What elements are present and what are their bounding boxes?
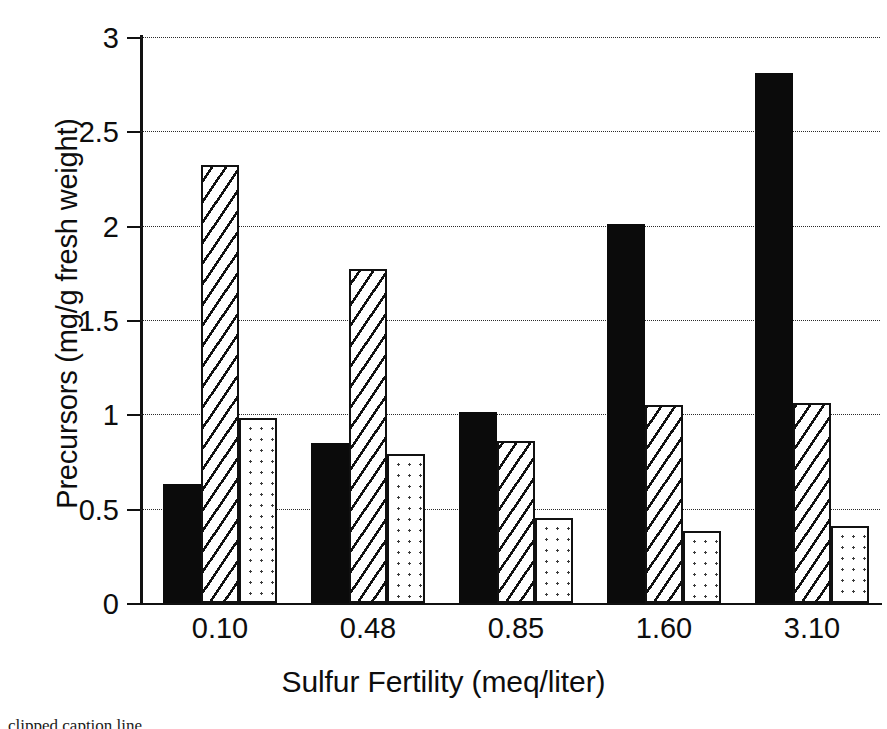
y-axis-tick: 0 bbox=[127, 603, 141, 605]
y-axis-tick: 3 bbox=[127, 37, 141, 39]
y-axis-tick-label: 3 bbox=[103, 22, 119, 55]
bar-series-hatched-0.10[interactable] bbox=[201, 165, 239, 603]
bar-group bbox=[607, 37, 721, 603]
bar-series-solid-0.48[interactable] bbox=[311, 443, 349, 603]
bar-group bbox=[755, 37, 869, 603]
y-axis-tick-label: 1.5 bbox=[79, 305, 119, 338]
y-axis-tick-label: 0 bbox=[103, 588, 119, 621]
figure-caption-clipped: clipped caption line bbox=[8, 716, 879, 729]
bar-series-solid-0.85[interactable] bbox=[459, 412, 497, 603]
bar-series-dotted-1.60[interactable] bbox=[683, 531, 721, 603]
bar-series-dotted-0.48[interactable] bbox=[387, 454, 425, 603]
x-axis-tick-label: 1.60 bbox=[636, 612, 692, 645]
bar-group bbox=[459, 37, 573, 603]
bar-group bbox=[163, 37, 277, 603]
bar-series-dotted-0.10[interactable] bbox=[239, 418, 277, 603]
bar-series-hatched-3.10[interactable] bbox=[793, 403, 831, 603]
y-axis-tick: 2 bbox=[127, 226, 141, 228]
bar-series-solid-3.10[interactable] bbox=[755, 73, 793, 603]
y-axis-tick-label: 1 bbox=[103, 399, 119, 432]
bar-series-solid-0.10[interactable] bbox=[163, 484, 201, 603]
y-axis-tick-label: 2 bbox=[103, 210, 119, 243]
y-axis-tick-label: 0.5 bbox=[79, 493, 119, 526]
y-axis-tick-label: 2.5 bbox=[79, 116, 119, 149]
y-axis-tick: 2.5 bbox=[127, 131, 141, 133]
x-axis-tick-label: 3.10 bbox=[784, 612, 840, 645]
x-axis-tick-label: 0.10 bbox=[192, 612, 248, 645]
bar-group bbox=[311, 37, 425, 603]
x-axis-tick-label: 0.48 bbox=[340, 612, 396, 645]
bar-chart-figure: Precursors (mg/g fresh weight) 00.511.52… bbox=[0, 0, 887, 729]
bar-series-hatched-0.85[interactable] bbox=[497, 441, 535, 603]
bar-series-solid-1.60[interactable] bbox=[607, 224, 645, 603]
x-axis-tick-label: 0.85 bbox=[488, 612, 544, 645]
x-axis-title: Sulfur Fertility (meq/liter) bbox=[0, 665, 887, 699]
bar-series-hatched-0.48[interactable] bbox=[349, 269, 387, 603]
bar-series-dotted-3.10[interactable] bbox=[831, 526, 869, 603]
bar-series-dotted-0.85[interactable] bbox=[535, 518, 573, 603]
plot-area: 00.511.522.53 bbox=[140, 37, 880, 603]
y-axis-tick: 1 bbox=[127, 414, 141, 416]
y-axis-tick: 0.5 bbox=[127, 509, 141, 511]
y-axis-tick: 1.5 bbox=[127, 320, 141, 322]
bar-series-hatched-1.60[interactable] bbox=[645, 405, 683, 603]
